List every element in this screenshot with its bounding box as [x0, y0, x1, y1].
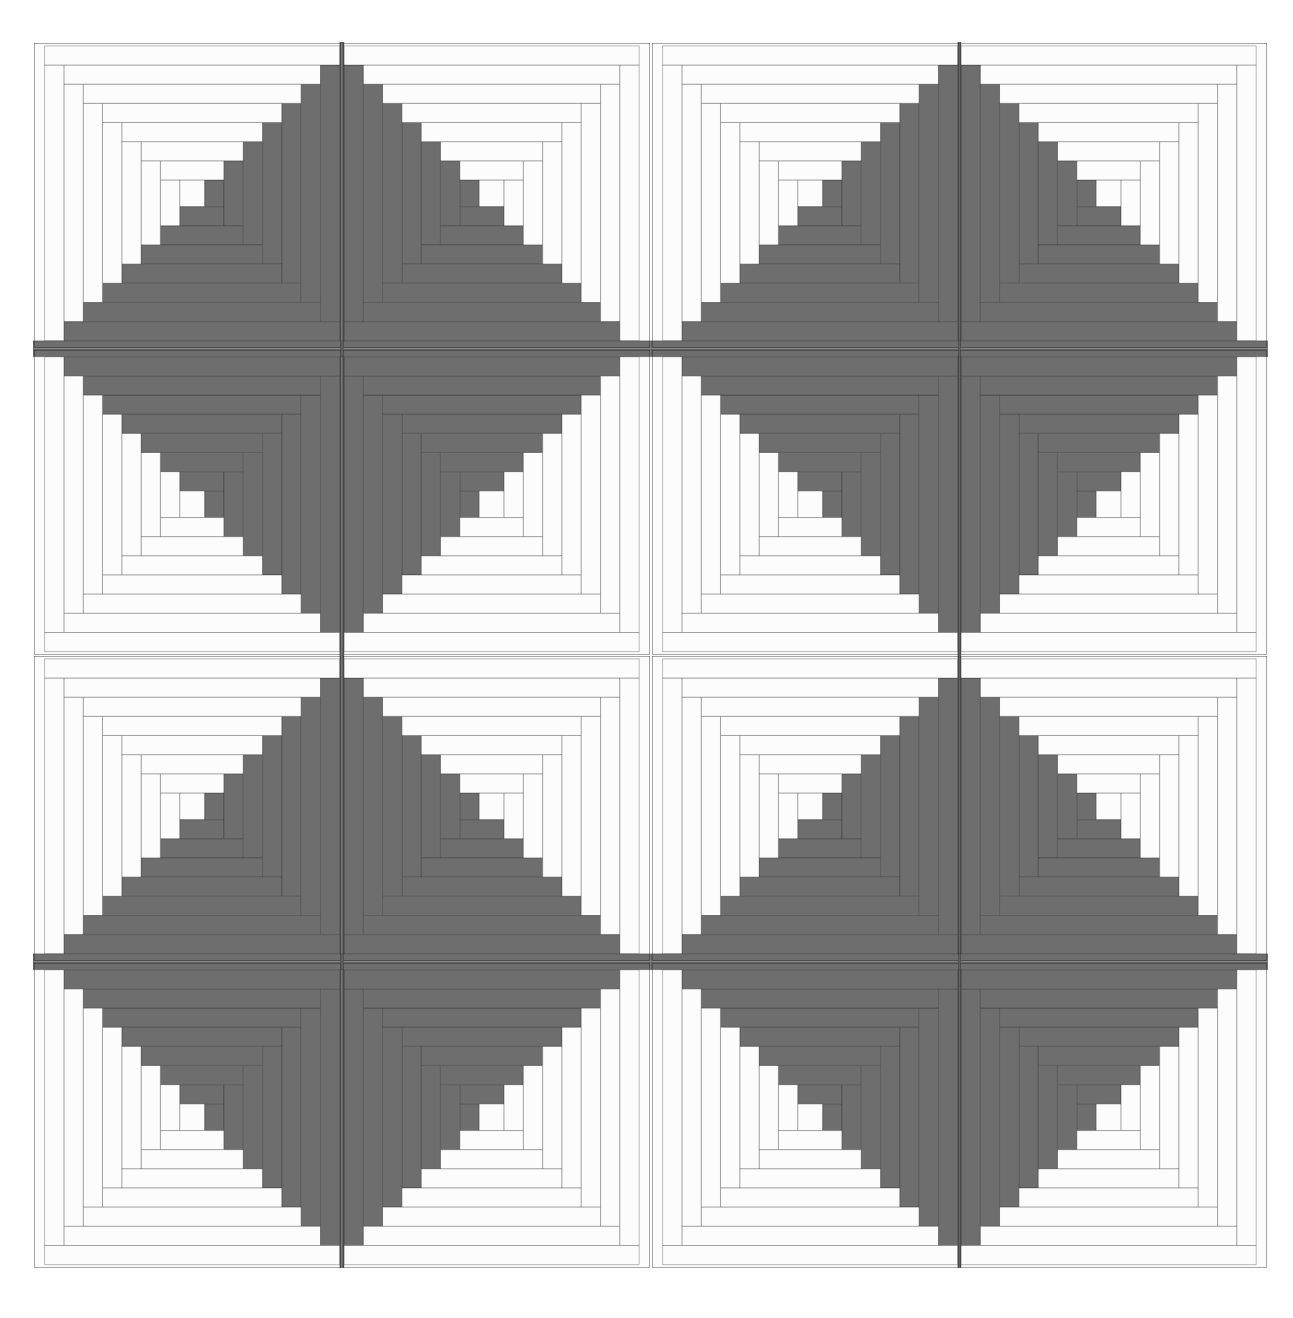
- block-r2c2: [342, 349, 651, 656]
- block-r4c3: [651, 962, 960, 1269]
- artwork-canvas: [0, 0, 1293, 1318]
- block-r2c1: [33, 349, 342, 656]
- block-r3c3: [651, 655, 960, 962]
- block-r1c4: [959, 42, 1268, 349]
- block-r1c3: [651, 42, 960, 349]
- block-r4c2: [342, 962, 651, 1269]
- block-r2c3: [651, 349, 960, 656]
- block-r1c2: [342, 42, 651, 349]
- block-r2c4: [959, 349, 1268, 656]
- block-r4c4: [959, 962, 1268, 1269]
- block-r1c1: [33, 42, 342, 349]
- quilt-grid: [33, 42, 1268, 1268]
- block-r4c1: [33, 962, 342, 1269]
- block-r3c2: [342, 655, 651, 962]
- block-r3c1: [33, 655, 342, 962]
- block-r3c4: [959, 655, 1268, 962]
